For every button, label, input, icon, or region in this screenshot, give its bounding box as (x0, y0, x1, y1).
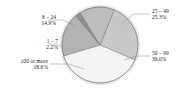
rim-tick (74, 14, 75, 16)
rim-tick (134, 27, 136, 28)
rim-tick (133, 65, 135, 66)
rim-tick (122, 76, 123, 78)
rim-tick (69, 69, 71, 70)
rim-tick (63, 59, 65, 60)
rim-tick (116, 79, 117, 81)
rim-tick (110, 82, 111, 84)
rim-tick (67, 66, 69, 67)
rim-tick (76, 75, 77, 77)
rim-tick (131, 21, 133, 22)
rim-tick (115, 80, 116, 82)
pie-slice-label-percent: 25.3% (152, 14, 169, 20)
rim-tick (123, 75, 124, 77)
rim-tick (119, 10, 120, 12)
rim-tick (132, 66, 134, 67)
rim-tick (110, 6, 111, 8)
rim-tick (63, 30, 65, 31)
rim-tick (80, 10, 81, 12)
rim-tick (118, 9, 119, 11)
rim-tick (67, 23, 69, 24)
rim-tick (133, 24, 135, 25)
rim-tick (80, 78, 81, 80)
rim-tick (84, 80, 85, 82)
rim-tick (81, 9, 82, 11)
rim-tick (133, 26, 135, 27)
rim-tick (83, 9, 84, 11)
rim-tick (66, 24, 68, 25)
rim-tick (136, 58, 138, 59)
pie-chart-figure: 25 – 4925.3%50 – 9939.0%100 or more18.6%… (0, 0, 190, 90)
rim-tick (61, 54, 63, 55)
rim-tick (62, 32, 64, 33)
rim-tick (113, 7, 114, 9)
rim-tick (118, 79, 119, 81)
rim-tick (86, 7, 87, 9)
pie-slice-label: 100 or more18.6% (0, 58, 48, 71)
pie-slice-label-percent: 14.9% (0, 20, 56, 26)
rim-tick (88, 81, 89, 83)
rim-tick (62, 58, 64, 59)
rim-tick (72, 16, 74, 18)
pie-slice-label-percent: 39.0% (152, 56, 169, 62)
rim-tick (64, 62, 66, 63)
rim-tick (109, 82, 110, 84)
rim-tick (63, 29, 65, 30)
rim-tick (112, 7, 113, 9)
pie-slice-label: 25 – 4925.3% (152, 8, 169, 21)
rim-tick (78, 77, 79, 79)
rim-tick (62, 56, 64, 57)
pie-wedges (62, 7, 138, 83)
rim-tick (64, 27, 66, 28)
rim-tick (136, 32, 138, 33)
rim-tick (61, 35, 63, 36)
rim-tick (91, 82, 92, 84)
rim-tick (119, 78, 120, 80)
rim-tick (135, 29, 137, 30)
rim-tick (71, 71, 73, 73)
rim-tick (63, 60, 65, 61)
rim-tick (72, 72, 74, 74)
rim-tick (112, 81, 113, 83)
rim-tick (136, 33, 138, 34)
rim-tick (135, 60, 137, 61)
rim-tick (84, 8, 85, 10)
rim-tick (132, 23, 134, 24)
rim-tick (128, 71, 130, 73)
rim-tick (78, 11, 79, 13)
rim-tick (83, 79, 84, 81)
rim-tick (69, 20, 71, 21)
rim-tick (89, 82, 90, 84)
rim-tick (120, 77, 121, 79)
rim-tick (66, 65, 68, 66)
rim-tick (122, 12, 123, 14)
rim-tick (137, 35, 139, 36)
rim-tick (86, 81, 87, 83)
pie-slice-label-percent: 18.6% (0, 64, 48, 70)
rim-tick (116, 9, 117, 11)
rim-tick (123, 13, 124, 15)
rim-tick (135, 30, 137, 31)
rim-tick (77, 76, 78, 78)
rim-tick (73, 73, 74, 75)
rim-tick (127, 72, 129, 74)
rim-tick (113, 81, 114, 83)
rim-tick (71, 17, 73, 19)
rim-tick (133, 63, 135, 64)
rim-tick (76, 13, 77, 15)
rim-tick (129, 70, 131, 71)
rim-tick (120, 11, 121, 13)
pie-slice-label: 50 – 9939.0% (152, 50, 169, 63)
rim-tick (77, 12, 78, 14)
rim-tick (135, 59, 137, 60)
rim-tick (62, 33, 64, 34)
pie-slice-label: 8 – 2414.9% (0, 14, 56, 27)
rim-tick (70, 19, 72, 20)
rim-tick (65, 26, 67, 27)
rim-tick (137, 54, 139, 55)
rim-tick (115, 8, 116, 10)
rim-tick (109, 6, 110, 8)
rim-tick (131, 67, 133, 68)
pie-slice-label: 1 – 72.2% (0, 38, 58, 51)
pie-slice-label-percent: 2.2% (0, 44, 58, 50)
rim-tick (70, 70, 72, 71)
